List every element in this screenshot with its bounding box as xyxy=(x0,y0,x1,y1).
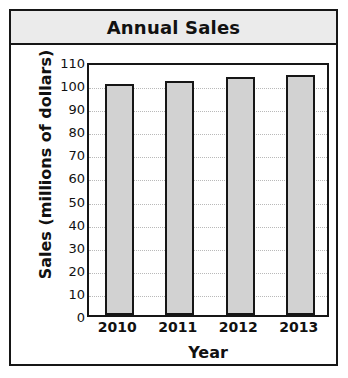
y-tick-label: 0 xyxy=(77,310,85,325)
plot-area xyxy=(87,63,329,317)
bar-series xyxy=(89,65,327,315)
y-axis-tick-labels: 1101009080706050403020100 xyxy=(47,63,85,317)
x-axis-tick-labels: 2010201120122013 xyxy=(87,319,329,341)
y-tick-label: 50 xyxy=(68,194,85,209)
y-tick-label: 70 xyxy=(68,148,85,163)
y-tick-label: 10 xyxy=(68,286,85,301)
y-tick-label: 30 xyxy=(68,240,85,255)
chart-plot-body: Sales (millions of dollars) 110100908070… xyxy=(11,45,336,364)
x-tick-label: 2010 xyxy=(98,319,137,335)
y-tick-label: 90 xyxy=(68,102,85,117)
y-tick-label: 60 xyxy=(68,171,85,186)
chart-figure: Annual Sales Sales (millions of dollars)… xyxy=(9,9,338,366)
y-tick-label: 40 xyxy=(68,217,85,232)
x-axis-title: Year xyxy=(87,343,329,362)
y-tick-label: 80 xyxy=(68,125,85,140)
x-tick-label: 2012 xyxy=(219,319,258,335)
y-tick-label: 110 xyxy=(60,56,85,71)
chart-title: Annual Sales xyxy=(107,17,241,38)
bar-2010 xyxy=(105,84,134,315)
y-tick-label: 20 xyxy=(68,263,85,278)
x-tick-label: 2013 xyxy=(279,319,318,335)
bar-2013 xyxy=(286,75,315,315)
y-tick-label: 100 xyxy=(60,79,85,94)
bar-2011 xyxy=(165,81,194,315)
chart-title-band: Annual Sales xyxy=(11,11,336,45)
bar-2012 xyxy=(226,77,255,315)
x-tick-label: 2011 xyxy=(158,319,197,335)
